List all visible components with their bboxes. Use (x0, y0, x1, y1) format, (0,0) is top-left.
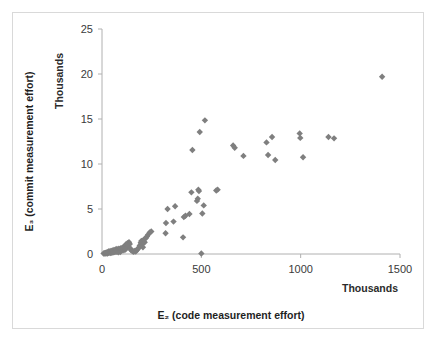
y-axis-tick-label: 15 (81, 113, 93, 125)
data-point-marker (180, 234, 186, 240)
data-point-marker (201, 202, 207, 208)
data-point-marker (263, 139, 269, 145)
x-axis-tick-label: 1500 (388, 263, 412, 275)
data-point-marker (265, 152, 271, 158)
data-point-marker (240, 153, 246, 159)
data-point-marker (202, 117, 208, 123)
data-point-marker (325, 134, 331, 140)
data-point-marker (199, 210, 205, 216)
y-axis-tick-label: 25 (81, 23, 93, 35)
data-point-marker (331, 135, 337, 141)
plot-area: 0510152025050010001500ThousandsThousands… (13, 13, 423, 328)
x-axis-unit-label: Thousands (342, 282, 398, 294)
data-point-marker (163, 220, 169, 226)
data-point-marker (297, 135, 303, 141)
data-point-marker (300, 154, 306, 160)
data-point-marker (172, 203, 178, 209)
x-axis-tick-label: 0 (99, 263, 105, 275)
y-axis-tick-label: 5 (87, 203, 93, 215)
data-point-marker (379, 74, 385, 80)
chart-border-frame: 0510152025050010001500ThousandsThousands… (12, 12, 424, 329)
data-point-marker (197, 129, 203, 135)
scatter-chart-figure: 0510152025050010001500ThousandsThousands… (0, 0, 443, 345)
data-point-marker (272, 157, 278, 163)
y-axis-title: E₃ (commit measurement effort) (23, 71, 35, 231)
data-point-marker (189, 147, 195, 153)
x-axis-title: E₂ (code measurement effort) (157, 309, 304, 321)
x-axis-tick-label: 1000 (288, 263, 312, 275)
y-axis-tick-label: 10 (81, 158, 93, 170)
data-point-marker (170, 218, 176, 224)
data-point-marker (269, 134, 275, 140)
y-axis-tick-label: 20 (81, 68, 93, 80)
data-point-marker (164, 206, 170, 212)
y-axis-tick-label: 0 (87, 248, 93, 260)
data-point-marker (198, 250, 204, 256)
y-axis-unit-label: Thousands (53, 53, 65, 109)
data-point-marker (188, 189, 194, 195)
data-point-marker (162, 230, 168, 236)
x-axis-tick-label: 500 (192, 263, 210, 275)
